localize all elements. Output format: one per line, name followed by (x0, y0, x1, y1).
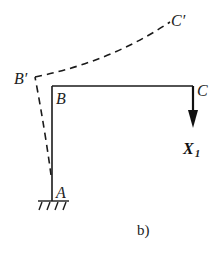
label-B: B (56, 90, 66, 107)
original-frame (52, 86, 193, 201)
label-C-prime: C′ (171, 12, 186, 29)
figure-caption: b) (137, 222, 150, 239)
deflected-column (35, 77, 51, 175)
label-C: C (197, 82, 208, 99)
deflected-beam (35, 22, 170, 77)
force-subscript: 1 (195, 147, 201, 159)
force-label: X1 (182, 140, 200, 159)
frame-diagram: B C B′ C′ A X1 b) (0, 0, 222, 257)
label-B-prime: B′ (14, 70, 28, 87)
force-symbol: X (182, 140, 194, 157)
fixed-support-icon (38, 201, 69, 210)
label-A: A (55, 184, 66, 201)
